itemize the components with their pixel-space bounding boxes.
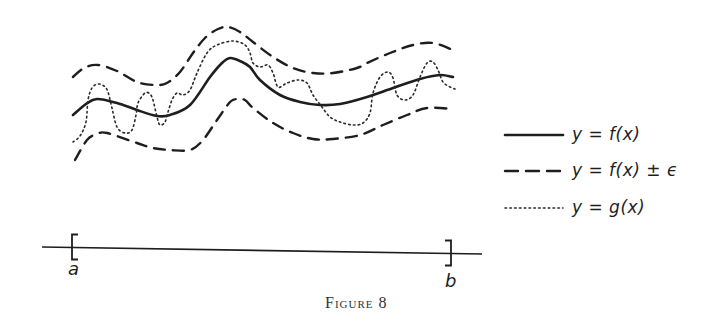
legend-label-f: y = f(x) (572, 126, 640, 143)
legend-swatches (505, 135, 563, 208)
curves (73, 27, 455, 160)
legend-label-f-pm-epsilon: y = f(x) ± ϵ (572, 162, 678, 179)
axis-line (42, 247, 482, 254)
curve-g (73, 41, 455, 142)
figure-caption: Figure 8 (325, 294, 388, 312)
endpoint-b-label: b (445, 272, 456, 290)
x-axis (42, 234, 482, 265)
legend-label-g: y = g(x) (572, 199, 645, 216)
curve-f-plus-epsilon (73, 27, 453, 85)
endpoint-a-label: a (68, 260, 79, 278)
